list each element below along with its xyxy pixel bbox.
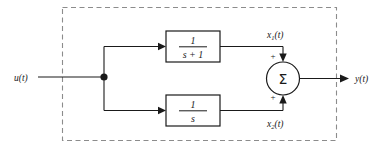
output-label: y(t) bbox=[354, 74, 368, 85]
plus-sign-bottom: + bbox=[270, 92, 275, 102]
block-diagram-svg: 1 s + 1 1 s Σ + + u(t) y(t) x1(t) x2(t) bbox=[0, 0, 377, 157]
output-label-text: y(t) bbox=[354, 74, 368, 85]
x2-arg: (t) bbox=[274, 119, 283, 130]
arrowhead-summer-top-input bbox=[279, 54, 286, 63]
sigma-symbol: Σ bbox=[279, 71, 288, 87]
x1-arg: (t) bbox=[274, 30, 283, 41]
arrowhead-output bbox=[340, 74, 349, 82]
signal-label-x1: x1(t) bbox=[266, 30, 283, 41]
plus-sign-top: + bbox=[270, 51, 275, 61]
block-top-numerator: 1 bbox=[191, 35, 196, 46]
block-diagram-canvas: 1 s + 1 1 s Σ + + u(t) y(t) x1(t) x2(t) bbox=[0, 0, 377, 157]
block-bottom-numerator: 1 bbox=[191, 99, 196, 110]
block-bottom-denominator: s bbox=[191, 113, 195, 124]
arrowhead-summer-bottom-input bbox=[279, 95, 286, 104]
input-label: u(t) bbox=[14, 73, 28, 84]
arrowhead-top-block-input bbox=[158, 43, 166, 50]
block-top-denominator: s + 1 bbox=[183, 49, 204, 60]
signal-label-x2: x2(t) bbox=[266, 119, 283, 130]
input-label-text: u(t) bbox=[14, 73, 28, 84]
arrowhead-bottom-block-input bbox=[158, 107, 166, 114]
